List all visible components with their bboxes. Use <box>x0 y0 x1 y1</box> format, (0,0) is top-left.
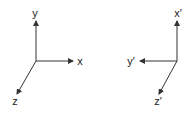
original-frame: y x z <box>12 7 83 107</box>
rotated-frame: x′ y′ z′ <box>127 7 182 107</box>
z-axis-arrow <box>17 61 36 94</box>
z-prime-axis-label: z′ <box>154 95 162 107</box>
z-axis-label: z <box>12 95 18 107</box>
z-prime-axis-arrow <box>159 61 177 94</box>
x-axis-label: x <box>77 55 83 67</box>
y-axis-label: y <box>32 7 38 19</box>
y-prime-axis-label: y′ <box>127 55 135 67</box>
x-prime-axis-label: x′ <box>174 7 182 19</box>
coordinate-frames-diagram: y x z x′ y′ z′ <box>0 0 190 115</box>
